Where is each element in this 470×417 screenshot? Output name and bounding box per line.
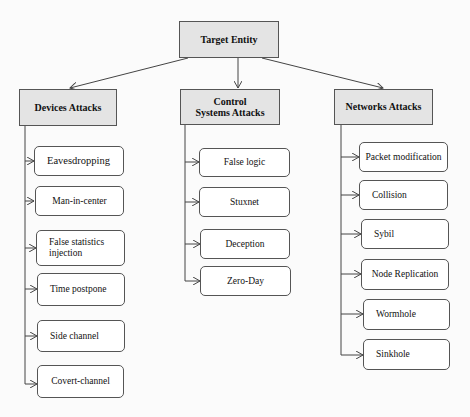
leaf-label: False statistics injection xyxy=(49,237,120,259)
leaf-label: Time postpone xyxy=(50,284,106,295)
leaf-stuxnet: Stuxnet xyxy=(199,187,290,217)
category-label: Devices Attacks xyxy=(35,102,102,114)
leaf-eavesdropping: Eavesdropping xyxy=(34,146,124,176)
category-label: Control Systems Attacks xyxy=(195,96,265,119)
leaf-time-postpone: Time postpone xyxy=(37,273,125,306)
category-networks-attacks: Networks Attacks xyxy=(334,89,433,125)
leaf-node-replication: Node Replication xyxy=(361,259,449,290)
category-devices-attacks: Devices Attacks xyxy=(19,89,117,126)
leaf-label: Side channel xyxy=(50,331,99,342)
leaf-label: False logic xyxy=(224,157,265,168)
leaf-collision: Collision xyxy=(359,180,448,210)
leaf-label: Node Replication xyxy=(372,269,439,280)
leaf-label: Wormhole xyxy=(376,309,416,320)
leaf-wormhole: Wormhole xyxy=(363,299,450,330)
leaf-side-channel: Side channel xyxy=(37,320,125,352)
leaf-covert-channel: Covert-channel xyxy=(37,365,124,398)
leaf-false-statistics-injection: False statistics injection xyxy=(36,230,125,266)
leaf-false-logic: False logic xyxy=(199,148,290,177)
leaf-label: Sybil xyxy=(374,229,394,240)
leaf-label: Stuxnet xyxy=(230,197,259,208)
leaf-label: Covert-channel xyxy=(51,376,110,387)
leaf-sinkhole: Sinkhole xyxy=(363,339,450,370)
category-control-systems-attacks: Control Systems Attacks xyxy=(180,89,280,125)
leaf-label: Collision xyxy=(372,190,407,201)
leaf-label: Packet modification xyxy=(365,152,441,163)
leaf-zero-day: Zero-Day xyxy=(200,266,291,296)
root-node-target-entity: Target Entity xyxy=(179,21,279,58)
leaf-sybil: Sybil xyxy=(361,219,449,249)
leaf-label: Eavesdropping xyxy=(47,155,110,167)
leaf-label: Sinkhole xyxy=(376,349,410,360)
category-label: Networks Attacks xyxy=(346,101,422,113)
root-label: Target Entity xyxy=(200,34,257,46)
leaf-man-in-center: Man-in-center xyxy=(35,186,124,216)
leaf-deception: Deception xyxy=(200,229,290,259)
leaf-label: Zero-Day xyxy=(227,276,264,287)
leaf-label: Deception xyxy=(225,239,264,250)
leaf-label: Man-in-center xyxy=(52,196,106,207)
leaf-packet-modification: Packet modification xyxy=(359,142,448,172)
